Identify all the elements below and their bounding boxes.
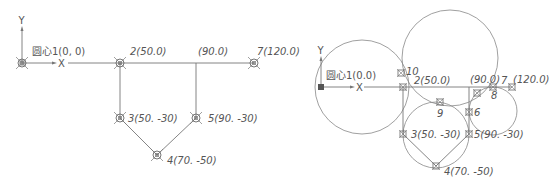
x-axis-arrow-icon bbox=[52, 62, 57, 65]
label-point-r1: 圆心1(0.0) bbox=[326, 70, 376, 81]
point-marker-7[interactable] bbox=[248, 57, 260, 69]
point-marker-r5[interactable] bbox=[465, 130, 473, 138]
point-marker-4[interactable] bbox=[151, 149, 163, 161]
label-point-4: 4(70. -50) bbox=[167, 155, 217, 166]
x-axis-arrow-icon-right bbox=[350, 86, 355, 89]
cad-drawing: Y X 圆心1(0, 0) 2(50.0) (90.0) 7(120.0) 3(… bbox=[0, 0, 555, 188]
point-marker-r2[interactable] bbox=[399, 83, 407, 91]
point-marker-r10[interactable] bbox=[397, 69, 405, 77]
point-marker-r90[interactable] bbox=[473, 89, 481, 97]
label-point-r7: 7 bbox=[501, 75, 508, 86]
point-marker-r9[interactable] bbox=[436, 98, 444, 106]
y-axis-label-right: Y bbox=[317, 45, 325, 56]
point-marker-r1[interactable] bbox=[318, 84, 324, 90]
label-point-r6: 6 bbox=[474, 107, 480, 118]
point-marker-r4[interactable] bbox=[432, 162, 440, 170]
circle-big bbox=[402, 10, 498, 106]
label-point-90: (90.0) bbox=[198, 46, 228, 57]
label-point-r3: 3(50. -30) bbox=[411, 129, 461, 140]
y-axis-arrow-icon-right bbox=[320, 56, 323, 61]
label-point-r120: (120.0) bbox=[513, 74, 549, 85]
left-diagram: Y X 圆心1(0, 0) 2(50.0) (90.0) 7(120.0) 3(… bbox=[16, 15, 300, 166]
y-axis-label: Y bbox=[18, 15, 26, 26]
label-point-r2: 2(50.0) bbox=[414, 75, 450, 86]
label-point-r4: 4(70. -50) bbox=[444, 166, 494, 177]
label-point-r90: (90.0) bbox=[470, 74, 500, 85]
label-point-r5: 5(90. -30) bbox=[474, 129, 524, 140]
right-diagram: Y X 圆心1(0.0) 10 2(50.0) (90.0) 7 (120.0)… bbox=[315, 10, 549, 177]
label-point-5: 5(90. -30) bbox=[208, 113, 258, 124]
label-point-2: 2(50.0) bbox=[130, 46, 166, 57]
label-point-r9: 9 bbox=[437, 108, 443, 119]
point-marker-r3[interactable] bbox=[399, 130, 407, 138]
label-point-7: 7(120.0) bbox=[257, 46, 300, 57]
point-marker-3[interactable] bbox=[114, 112, 126, 124]
label-point-1: 圆心1(0, 0) bbox=[32, 46, 85, 57]
label-point-r8: 8 bbox=[491, 90, 497, 101]
point-marker-r6[interactable] bbox=[465, 108, 473, 116]
point-marker-2[interactable] bbox=[114, 57, 126, 69]
x-axis-label-right: X bbox=[356, 82, 363, 93]
x-axis-label: X bbox=[58, 58, 65, 69]
label-point-3: 3(50. -30) bbox=[128, 113, 178, 124]
y-axis-arrow-icon bbox=[21, 26, 24, 31]
point-marker-5[interactable] bbox=[190, 112, 202, 124]
